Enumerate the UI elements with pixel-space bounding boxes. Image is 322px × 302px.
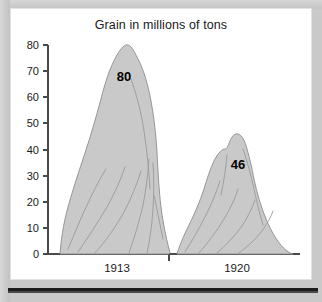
- y-tick-label: 30: [27, 170, 39, 182]
- y-tick-label: 0: [33, 248, 39, 260]
- chart-plot-area: 80 70 60 50 40 30 20 10 0: [11, 9, 311, 279]
- x-category-label-1913: 1913: [104, 262, 130, 274]
- pile-1913-silhouette: [60, 45, 170, 254]
- y-tick-label: 10: [27, 222, 39, 234]
- pile-1913-value-label: 80: [117, 69, 131, 84]
- y-tick-label: 20: [27, 196, 39, 208]
- y-axis-tick-labels: 80 70 60 50 40 30 20 10 0: [27, 39, 39, 260]
- y-tick-label: 50: [27, 117, 39, 129]
- chart-panel: Grain in millions of tons 80 70: [11, 9, 311, 279]
- page-frame-top: [0, 0, 322, 9]
- y-tick-label: 80: [27, 39, 39, 51]
- pile-1920: 46: [177, 134, 293, 254]
- page-frame-left: [0, 0, 10, 302]
- y-axis-ticks: [43, 45, 48, 254]
- y-tick-label: 40: [27, 144, 39, 156]
- y-tick-label: 60: [27, 91, 39, 103]
- pile-1920-value-label: 46: [231, 157, 245, 172]
- scanned-page: Grain in millions of tons 80 70: [0, 0, 322, 302]
- y-tick-label: 70: [27, 65, 39, 77]
- x-axis-category-labels: 1913 1920: [104, 262, 250, 274]
- page-bottom-rule-secondary: [8, 291, 318, 293]
- pile-1913: 80: [60, 45, 170, 254]
- x-category-label-1920: 1920: [224, 262, 250, 274]
